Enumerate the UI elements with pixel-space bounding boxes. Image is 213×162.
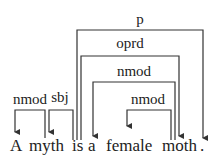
arc-label-nmod-3: nmod — [13, 91, 48, 107]
token-a: A — [10, 136, 23, 155]
token-myth: myth — [29, 136, 64, 155]
arc-nmod-myth-a: nmod — [13, 91, 48, 138]
arc-label-oprd: oprd — [116, 35, 144, 51]
arc-label-sbj: sbj — [51, 89, 69, 105]
arc-nmod-moth-female: nmod — [127, 91, 171, 140]
token-female: female — [106, 136, 152, 155]
token-a-2: a — [88, 136, 96, 155]
token-period: . — [200, 136, 204, 155]
arc-label-p: p — [136, 11, 144, 27]
arc-sbj: sbj — [49, 89, 73, 140]
token-moth: moth — [162, 136, 197, 155]
arc-oprd: oprd — [81, 35, 179, 140]
arc-label-nmod-1: nmod — [117, 63, 152, 79]
dependency-tree: p oprd nmod nmod nmod sbj A myth is a fe… — [0, 0, 213, 162]
token-is: is — [72, 136, 83, 155]
arc-label-nmod-2: nmod — [131, 91, 166, 107]
